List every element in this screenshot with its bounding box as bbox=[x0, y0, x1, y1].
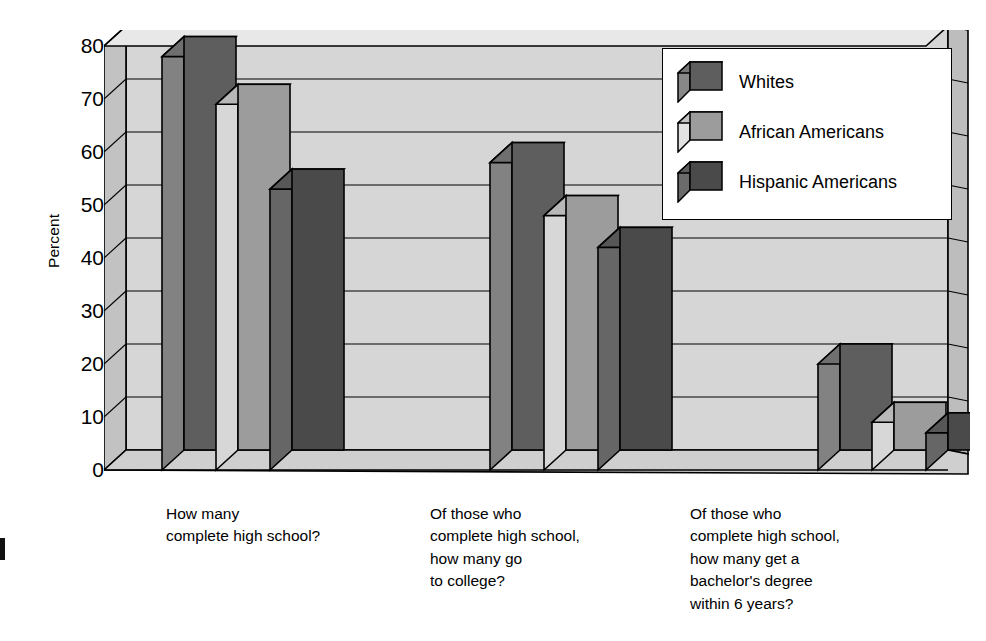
category-label-2: Of those who complete high school, how m… bbox=[690, 503, 952, 615]
y-tick-label-50: 50 bbox=[60, 194, 104, 215]
y-tick-label-30: 30 bbox=[60, 300, 104, 321]
y-tick-label-40: 40 bbox=[60, 247, 104, 268]
bar-side-face bbox=[270, 169, 292, 470]
y-tick-label-10: 10 bbox=[60, 406, 104, 427]
legend-row-whites[interactable]: Whites bbox=[677, 59, 794, 105]
chart-legend: WhitesAfrican AmericansHispanic American… bbox=[662, 48, 952, 220]
bar-front-face bbox=[620, 227, 672, 450]
category-label-1: Of those who complete high school, how m… bbox=[430, 503, 680, 593]
legend-label-african-americans: African Americans bbox=[739, 122, 884, 143]
legend-row-hispanic-americans[interactable]: Hispanic Americans bbox=[677, 159, 897, 205]
category-label-0: How many complete high school? bbox=[166, 503, 416, 548]
bar-side-face bbox=[490, 143, 512, 470]
bar-side-face bbox=[216, 84, 238, 470]
bar-front-face bbox=[292, 169, 344, 450]
legend-label-hispanic-americans: Hispanic Americans bbox=[739, 172, 897, 193]
bar-front-face bbox=[948, 413, 970, 450]
y-tick-label-70: 70 bbox=[60, 88, 104, 109]
legend-row-african-americans[interactable]: African Americans bbox=[677, 109, 884, 155]
y-tick-label-0: 0 bbox=[60, 459, 104, 480]
legend-swatch-cube-icon bbox=[677, 61, 723, 103]
legend-swatch-cube-icon bbox=[677, 161, 723, 203]
y-tick-label-20: 20 bbox=[60, 353, 104, 374]
bar-side-face bbox=[162, 37, 184, 470]
bar-hispanic-americans-group-1 bbox=[598, 227, 672, 470]
y-axis-tick-labels: 80706050403020100 bbox=[52, 0, 104, 641]
scan-artifact-mark bbox=[0, 538, 5, 560]
legend-label-whites: Whites bbox=[739, 72, 794, 93]
legend-swatch-cube-icon bbox=[677, 111, 723, 153]
bar-chart: Percent 80706050403020100 How many compl… bbox=[0, 0, 986, 641]
y-tick-label-60: 60 bbox=[60, 141, 104, 162]
bar-hispanic-americans-group-0 bbox=[270, 169, 344, 470]
bar-side-face bbox=[544, 196, 566, 470]
bar-side-face bbox=[598, 227, 620, 470]
y-tick-label-80: 80 bbox=[60, 35, 104, 56]
